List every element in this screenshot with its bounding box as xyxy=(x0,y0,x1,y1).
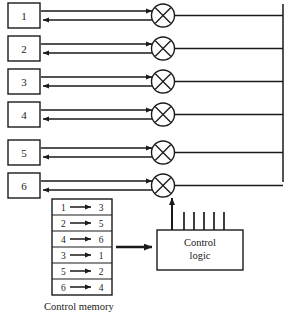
crosspoint-icon-2[interactable] xyxy=(152,37,175,60)
port-box-5-label: 5 xyxy=(21,147,27,159)
memory-row-5-from: 6 xyxy=(61,283,66,293)
control-memory-caption: Control memory xyxy=(44,301,114,312)
port-box-6-label: 6 xyxy=(21,180,27,192)
control-logic-box[interactable]: Control logic xyxy=(157,230,243,270)
crosspoint-icon-5[interactable] xyxy=(152,141,175,164)
port-row-4: 4 xyxy=(8,102,283,127)
memory-row-2-to: 6 xyxy=(99,235,104,245)
memory-row-5-to: 4 xyxy=(99,283,104,293)
control-logic-label-line2: logic xyxy=(190,250,211,261)
port-row-5: 5 xyxy=(8,140,283,165)
control-memory-table[interactable]: 1 3 2 5 4 6 3 1 5 2 xyxy=(52,199,112,295)
port-row-3: 3 xyxy=(8,69,283,94)
port-row-6: 6 xyxy=(8,173,283,198)
memory-row-1-from: 2 xyxy=(61,219,66,229)
port-row-1: 1 xyxy=(8,3,283,28)
control-logic-output-lines xyxy=(184,212,224,230)
memory-row-4-to: 2 xyxy=(99,267,104,277)
port-box-3-label: 3 xyxy=(21,76,27,88)
crossbar-switch-diagram: 1 2 3 xyxy=(0,0,290,315)
memory-row-4-from: 5 xyxy=(61,267,66,277)
port-row-2: 2 xyxy=(8,36,283,61)
port-box-4-label: 4 xyxy=(21,109,27,121)
port-box-2-label: 2 xyxy=(21,43,27,55)
memory-row-2-from: 4 xyxy=(61,235,66,245)
crosspoint-icon-1[interactable] xyxy=(152,4,175,27)
crosspoint-icon-4[interactable] xyxy=(152,103,175,126)
memory-row-3-from: 3 xyxy=(61,251,66,261)
memory-row-3-to: 1 xyxy=(99,251,104,261)
port-box-1-label: 1 xyxy=(21,10,27,22)
memory-row-0-from: 1 xyxy=(61,203,66,213)
memory-row-0-to: 3 xyxy=(99,203,104,213)
memory-row-1-to: 5 xyxy=(99,219,104,229)
crosspoint-icon-3[interactable] xyxy=(152,70,175,93)
control-logic-label-line1: Control xyxy=(184,237,216,248)
diagram-canvas: 1 2 3 xyxy=(0,0,290,315)
crosspoint-icon-6[interactable] xyxy=(152,174,175,197)
